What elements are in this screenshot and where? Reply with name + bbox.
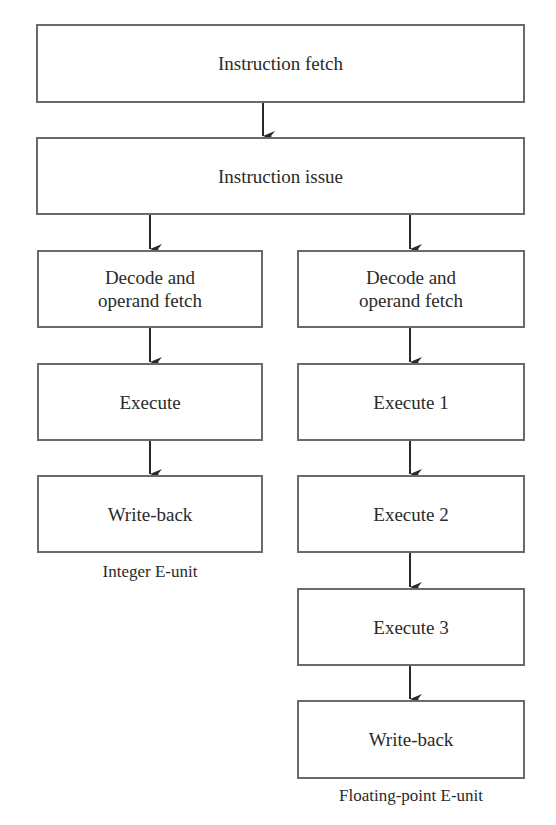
instruction-issue-label: Instruction issue [218,165,343,188]
int-execute-label: Execute [119,391,180,414]
int-writeback-box: Write-back [37,475,263,553]
fp-unit-caption: Floating-point E-unit [297,786,525,806]
instruction-fetch-box: Instruction fetch [36,24,525,103]
fp-execute1-box: Execute 1 [297,363,525,441]
instruction-fetch-label: Instruction fetch [218,52,343,75]
int-decode-label: Decode and operand fetch [98,266,202,312]
instruction-issue-box: Instruction issue [36,137,525,215]
fp-decode-label: Decode and operand fetch [359,266,463,312]
fp-decode-box: Decode and operand fetch [297,250,525,328]
fp-execute1-label: Execute 1 [373,391,448,414]
fp-execute2-box: Execute 2 [297,475,525,553]
int-execute-box: Execute [37,363,263,441]
integer-unit-caption: Integer E-unit [37,562,263,582]
fp-execute2-label: Execute 2 [373,503,448,526]
fp-execute3-box: Execute 3 [297,588,525,666]
fp-writeback-label: Write-back [369,728,454,751]
fp-writeback-box: Write-back [297,700,525,779]
int-decode-box: Decode and operand fetch [37,250,263,328]
int-writeback-label: Write-back [108,503,193,526]
fp-execute3-label: Execute 3 [373,616,448,639]
